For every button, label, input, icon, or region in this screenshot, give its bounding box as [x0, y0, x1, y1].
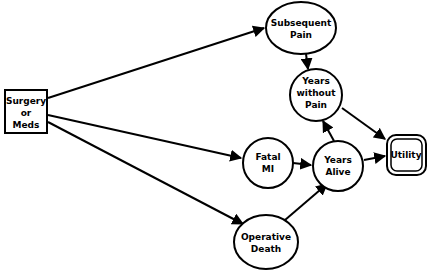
svg-text:Utility: Utility: [390, 150, 421, 160]
node-fatal-mi: Fatal MI: [243, 138, 293, 188]
svg-text:Alive: Alive: [325, 167, 350, 177]
svg-text:Operative: Operative: [241, 232, 291, 242]
svg-text:MI: MI: [262, 164, 274, 174]
node-years-without-pain: Years without Pain: [290, 69, 342, 121]
node-utility: Utility: [387, 135, 426, 175]
node-surgery-or-meds: Surgery or Meds: [5, 90, 47, 133]
svg-text:without: without: [296, 88, 336, 98]
edge-fatal-mi-to-years-alive: [293, 163, 311, 165]
edge-years-alive-to-utility: [364, 156, 385, 160]
edge-surgery-to-subsequent-pain: [48, 28, 264, 98]
svg-text:Surgery: Surgery: [6, 96, 46, 106]
svg-text:Pain: Pain: [305, 100, 327, 110]
node-operative-death: Operative Death: [234, 215, 298, 269]
node-subsequent-pain: Subsequent Pain: [266, 2, 336, 54]
influence-diagram: Surgery or Meds Subsequent Pain Years wi…: [0, 0, 429, 274]
svg-text:Fatal: Fatal: [255, 152, 280, 162]
svg-text:Years: Years: [301, 76, 330, 86]
svg-text:Pain: Pain: [290, 30, 312, 40]
edges: [48, 28, 385, 224]
edge-years-without-pain-to-utility: [342, 108, 385, 139]
svg-text:Death: Death: [251, 244, 281, 254]
svg-text:or: or: [21, 108, 32, 118]
svg-text:Meds: Meds: [13, 120, 40, 130]
edge-subsequent-pain-to-years-without-pain: [306, 54, 308, 69]
node-years-alive: Years Alive: [313, 141, 363, 191]
svg-text:Years: Years: [323, 155, 352, 165]
edge-operative-death-to-years-alive: [285, 184, 327, 220]
svg-text:Subsequent: Subsequent: [271, 18, 332, 28]
edge-years-alive-to-years-without-pain: [323, 121, 334, 141]
